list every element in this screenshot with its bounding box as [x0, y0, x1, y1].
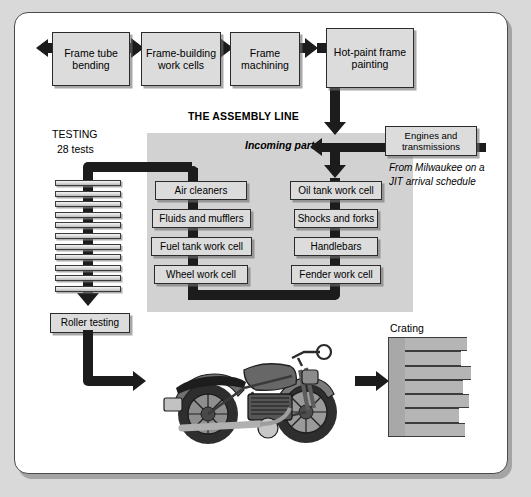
testing-bar — [55, 212, 121, 218]
bottom-link-bar — [188, 290, 336, 300]
testing-bar — [55, 201, 121, 207]
testing-bar — [55, 233, 121, 239]
testing-bar — [55, 254, 121, 260]
work-cell-handlebars[interactable]: Handlebars — [294, 237, 378, 256]
process-box-label: Hot-paint frame painting — [327, 46, 413, 71]
testing-bar — [55, 286, 121, 292]
testing-bar — [55, 180, 121, 186]
handlebars — [292, 352, 320, 366]
crate — [405, 394, 469, 408]
crate — [405, 337, 467, 351]
work-cell-oil-tank[interactable]: Oil tank work cell — [290, 181, 382, 200]
diagram-canvas: Frame tube bending Frame-building work c… — [0, 0, 531, 497]
crate — [405, 351, 461, 365]
work-cell-label: Handlebars — [310, 241, 361, 253]
work-cell-label: Shocks and forks — [298, 213, 375, 225]
incoming-parts-arrow — [310, 138, 322, 156]
process-box-frame-tube-bending[interactable]: Frame tube bending — [52, 32, 130, 86]
testing-bar — [55, 244, 121, 250]
testing-bar — [55, 222, 121, 228]
work-cell-label: Fluids and mufflers — [159, 213, 243, 225]
incoming-parts-label: Incoming parts — [245, 139, 320, 151]
crate-list — [405, 337, 474, 437]
merge-down-arrow — [324, 165, 346, 178]
work-cell-fluids-and-mufflers[interactable]: Fluids and mufflers — [152, 209, 251, 228]
process-box-engines-and-transmissions[interactable]: Engines and transmissions — [385, 126, 477, 156]
exhaust-pipe — [182, 424, 260, 428]
testing-down-arrow — [77, 293, 99, 306]
work-cell-label: Wheel work cell — [166, 269, 236, 281]
work-cell-label: Fender work cell — [299, 269, 372, 281]
process-box-label: Frame tube bending — [53, 47, 129, 72]
engines-note: From Milwaukee on a JIT arrival schedule — [389, 161, 485, 188]
work-cell-shocks-and-forks[interactable]: Shocks and forks — [294, 209, 378, 228]
process-box-frame-machining[interactable]: Frame machining — [230, 32, 300, 86]
work-cell-label: Air cleaners — [175, 185, 228, 197]
process-box-label: Frame-building work cells — [142, 47, 220, 72]
work-cell-fuel-tank[interactable]: Fuel tank work cell — [151, 237, 252, 256]
work-cell-label: Oil tank work cell — [298, 185, 374, 197]
testing-heading: TESTING — [52, 128, 98, 140]
work-cell-air-cleaners[interactable]: Air cleaners — [155, 181, 247, 200]
work-cell-wheel[interactable]: Wheel work cell — [154, 265, 248, 284]
crate — [405, 366, 471, 380]
testing-bar — [55, 191, 121, 197]
roller-out-bar — [88, 376, 136, 386]
process-box-hot-paint-frame-painting[interactable]: Hot-paint frame painting — [326, 28, 414, 88]
motorcycle-svg — [152, 336, 352, 448]
testing-feed-bar — [88, 162, 192, 172]
crate-spine — [388, 337, 406, 437]
work-cell-label: Fuel tank work cell — [160, 241, 243, 253]
finished-motorcycle-illustration — [152, 336, 352, 448]
testing-bar — [55, 265, 121, 271]
crating-stack — [388, 337, 474, 437]
crate — [405, 423, 465, 437]
headlight — [302, 370, 318, 384]
process-box-label: Engines and transmissions — [386, 130, 476, 152]
crating-label: Crating — [390, 322, 424, 334]
process-box-label: Roller testing — [61, 317, 119, 329]
crate — [405, 380, 463, 394]
crate — [405, 408, 459, 422]
process-box-frame-building-work-cells[interactable]: Frame-building work cells — [141, 32, 221, 86]
process-box-label: Frame machining — [231, 47, 299, 72]
tail-unit — [164, 398, 182, 411]
assembly-line-title: THE ASSEMBLY LINE — [188, 110, 299, 122]
work-cell-fender[interactable]: Fender work cell — [291, 265, 381, 284]
flow-down-arrow-painting — [324, 122, 346, 135]
testing-count: 28 tests — [57, 143, 94, 155]
roller-out-arrow — [133, 371, 146, 391]
testing-bar — [55, 275, 121, 281]
